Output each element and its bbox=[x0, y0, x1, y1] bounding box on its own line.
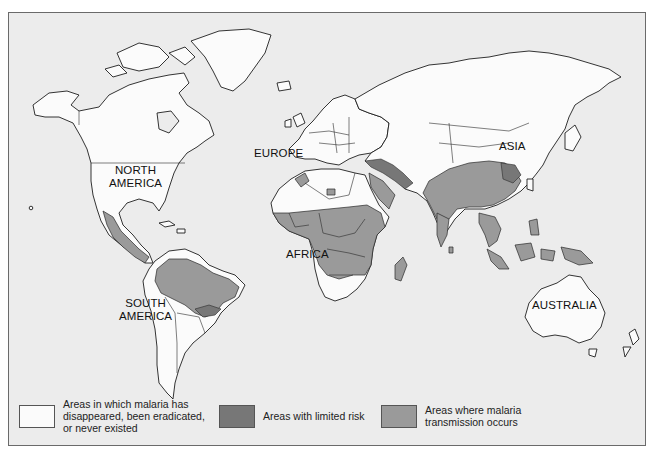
legend-transmission-line1: Areas where malaria bbox=[425, 404, 521, 416]
label-north-america-line2: AMERICA bbox=[109, 177, 162, 190]
label-south-america-line2: AMERICA bbox=[119, 310, 172, 323]
legend-text-none: Areas in which malaria has disappeared, … bbox=[63, 398, 205, 434]
label-south-america-line1: SOUTH bbox=[119, 297, 172, 310]
legend-text-transmission: Areas where malaria transmission occurs bbox=[425, 404, 521, 428]
iceland bbox=[277, 81, 291, 91]
arctic-islands bbox=[105, 43, 195, 77]
label-north-america-line1: NORTH bbox=[109, 164, 162, 177]
pacific-island bbox=[29, 206, 33, 210]
label-north-america: NORTH AMERICA bbox=[109, 164, 162, 190]
legend-swatch-transmission bbox=[381, 405, 417, 428]
sri-lanka bbox=[449, 247, 453, 253]
legend-none-line2: disappeared, been eradicated, bbox=[63, 410, 205, 422]
map-frame: NORTH AMERICA EUROPE ASIA AFRICA SOUTH A… bbox=[8, 12, 646, 446]
new-zealand bbox=[623, 329, 639, 357]
subsaharan-transmission bbox=[273, 205, 385, 279]
world-map bbox=[9, 13, 647, 447]
legend-swatch-none bbox=[19, 405, 55, 428]
legend-none-line3: or never existed bbox=[63, 422, 205, 434]
central-america-transmission bbox=[103, 211, 149, 263]
japan bbox=[565, 125, 581, 151]
british-isles bbox=[285, 113, 305, 127]
label-australia: AUSTRALIA bbox=[532, 299, 597, 312]
legend-swatch-limited bbox=[219, 405, 255, 428]
label-europe: EUROPE bbox=[254, 147, 303, 160]
legend-item-limited: Areas with limited risk bbox=[219, 396, 365, 436]
taiwan bbox=[527, 179, 533, 191]
tasmania bbox=[589, 349, 597, 357]
southeast-asia-transmission bbox=[479, 213, 501, 247]
legend-transmission-line2: transmission occurs bbox=[425, 416, 521, 428]
india-peninsula bbox=[437, 213, 449, 247]
label-africa: AFRICA bbox=[286, 248, 329, 261]
madagascar bbox=[395, 257, 407, 281]
greenland bbox=[191, 29, 271, 91]
legend-item-transmission: Areas where malaria transmission occurs bbox=[381, 396, 521, 436]
legend-item-none: Areas in which malaria has disappeared, … bbox=[19, 396, 205, 436]
label-asia: ASIA bbox=[499, 140, 526, 153]
caribbean-islands bbox=[159, 221, 185, 233]
legend-none-line1: Areas in which malaria has bbox=[63, 398, 205, 410]
label-south-america: SOUTH AMERICA bbox=[119, 297, 172, 323]
legend-limited-line1: Areas with limited risk bbox=[263, 410, 365, 422]
legend-text-limited: Areas with limited risk bbox=[263, 410, 365, 422]
indonesia-transmission bbox=[487, 219, 593, 269]
